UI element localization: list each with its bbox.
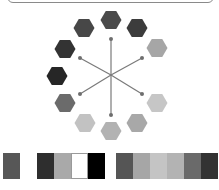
right-swatch-2 <box>133 153 150 179</box>
left-swatch-2 <box>20 153 37 179</box>
left-swatch-5 <box>71 153 88 179</box>
left-swatch-1 <box>3 153 20 179</box>
spoke-line <box>80 58 111 75</box>
color-wheel-diagram <box>0 0 219 150</box>
hex-top-right-hexagon <box>127 19 148 37</box>
spoke-endpoint-dot <box>78 92 82 96</box>
right-swatch-6 <box>201 153 218 179</box>
hex-top-left-hexagon <box>74 19 95 37</box>
swatch-row-right <box>116 153 218 179</box>
hex-bottom-left-hexagon <box>75 114 96 132</box>
hex-right-upper-hexagon <box>147 39 168 57</box>
left-swatch-4 <box>54 153 71 179</box>
right-swatch-5 <box>184 153 201 179</box>
spoke-endpoint-dot <box>109 37 113 41</box>
right-swatch-1 <box>116 153 133 179</box>
right-swatch-3 <box>150 153 167 179</box>
spoke-endpoint-dot <box>140 56 144 60</box>
hex-bottom-right-hexagon <box>127 114 148 132</box>
hex-top-hexagon <box>101 11 122 29</box>
swatch-row-left <box>3 153 105 179</box>
hex-right-lower-hexagon <box>147 94 168 112</box>
left-swatch-3 <box>37 153 54 179</box>
spoke-line <box>111 58 142 75</box>
hex-left-lower-hexagon <box>55 94 76 112</box>
spoke-line <box>80 75 111 94</box>
right-swatch-4 <box>167 153 184 179</box>
spoke-endpoint-dot <box>140 92 144 96</box>
spoke-endpoint-dot <box>109 113 113 117</box>
spoke-line <box>111 75 142 94</box>
spoke-endpoint-dot <box>78 56 82 60</box>
hex-left-hexagon <box>47 67 68 85</box>
left-swatch-6 <box>88 153 105 179</box>
hex-bottom-hexagon <box>101 122 122 140</box>
hex-left-upper-hexagon <box>55 40 76 58</box>
